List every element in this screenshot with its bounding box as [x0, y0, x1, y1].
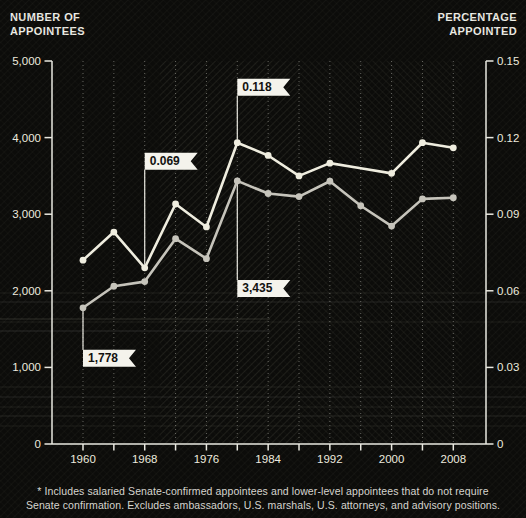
data-point-percentage-2000 — [388, 170, 395, 177]
x-axis-tick-label: 1992 — [317, 453, 343, 465]
data-point-appointees-1992 — [326, 178, 333, 185]
annotation-flag-label: 3,435 — [242, 281, 272, 295]
right-axis-tick-label: 0.15 — [497, 55, 519, 67]
data-point-percentage-1984 — [265, 152, 272, 159]
right-axis-tick-label: 0.12 — [497, 132, 519, 144]
footnote-line2: Senate confirmation. Excludes ambassador… — [0, 498, 526, 512]
annotation-flag-label: 0.118 — [242, 80, 272, 94]
left-axis-tick-label: 1,000 — [12, 361, 41, 373]
chart-canvas: 01,0002,0003,0004,0005,00000.030.060.090… — [0, 0, 526, 518]
footnote: * Includes salaried Senate-confirmed app… — [0, 484, 526, 512]
x-axis-tick-label: 1976 — [194, 453, 220, 465]
annotation-flag: 1,778 — [83, 350, 136, 367]
x-axis-tick-label: 1968 — [132, 453, 158, 465]
x-axis-tick-label: 1984 — [255, 453, 281, 465]
data-point-appointees-1968 — [141, 278, 148, 285]
data-point-percentage-2008 — [450, 144, 457, 151]
data-point-appointees-1976 — [203, 255, 210, 262]
left-axis-tick-label: 0 — [35, 438, 41, 450]
right-axis-tick-label: 0.03 — [497, 361, 519, 373]
x-axis-tick-label: 1960 — [70, 453, 96, 465]
data-point-appointees-2000 — [388, 223, 395, 230]
x-axis-tick-label: 2008 — [441, 453, 467, 465]
data-point-appointees-1964 — [110, 283, 117, 290]
data-point-percentage-1992 — [326, 160, 333, 167]
background-texture — [0, 0, 526, 518]
right-axis-tick-label: 0.06 — [497, 285, 519, 297]
data-point-percentage-2004 — [419, 139, 426, 146]
data-point-appointees-1980 — [234, 177, 241, 184]
data-point-appointees-1960 — [80, 304, 87, 311]
right-axis-tick-label: 0.09 — [497, 208, 519, 220]
annotation-flag: 0.069 — [145, 153, 198, 170]
data-point-appointees-1988 — [296, 193, 303, 200]
data-point-appointees-1972 — [172, 235, 179, 242]
data-point-appointees-2008 — [450, 194, 457, 201]
data-point-percentage-1968 — [141, 264, 148, 271]
right-axis-tick-label: 0 — [497, 438, 503, 450]
data-point-appointees-2004 — [419, 195, 426, 202]
left-axis-tick-label: 4,000 — [12, 132, 41, 144]
data-point-percentage-1976 — [203, 224, 210, 231]
left-axis-tick-label: 2,000 — [12, 285, 41, 297]
data-point-appointees-1984 — [265, 190, 272, 197]
annotation-flag: 0.118 — [237, 79, 290, 96]
footnote-line1: * Includes salaried Senate-confirmed app… — [0, 484, 526, 498]
annotation-flag-label: 1,778 — [88, 351, 118, 365]
annotation-flag: 3,435 — [237, 280, 290, 297]
x-axis-tick-label: 2000 — [379, 453, 405, 465]
annotation-flag-label: 0.069 — [150, 154, 180, 168]
data-point-percentage-1988 — [296, 173, 303, 180]
left-axis-tick-label: 5,000 — [12, 55, 41, 67]
chart: NUMBER OF APPOINTEES PERCENTAGE APPOINTE… — [0, 0, 526, 518]
data-point-percentage-1980 — [234, 139, 241, 146]
data-point-percentage-1964 — [110, 229, 117, 236]
data-point-appointees-1996 — [357, 202, 364, 209]
left-axis-tick-label: 3,000 — [12, 208, 41, 220]
data-point-percentage-1960 — [80, 257, 87, 264]
data-point-percentage-1972 — [172, 201, 179, 208]
